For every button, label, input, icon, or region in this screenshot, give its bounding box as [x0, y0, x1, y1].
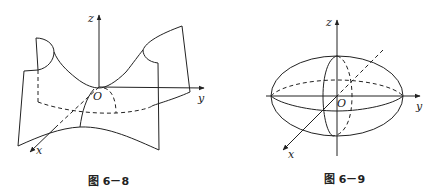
figure-caption-6-9: 图 6－9 [324, 170, 365, 186]
saddle-surface-figure [18, 15, 204, 152]
x-axis [283, 96, 337, 150]
saddle-front-parabola [80, 89, 94, 127]
saddle-left-lobe [36, 38, 54, 70]
y-axis [99, 87, 204, 88]
figure-caption-6-8: 图 6－8 [88, 172, 129, 188]
y-axis-label-fig-6-8: y [197, 92, 205, 105]
origin-label-fig-6-9: O [337, 97, 346, 110]
z-axis-label-fig-6-9: z [325, 16, 332, 29]
figures-canvas: z y x O z y x O [0, 0, 437, 196]
saddle-hidden-bottom [38, 102, 152, 113]
ellipsoid-figure [266, 20, 420, 156]
origin-label-fig-6-8: O [93, 90, 102, 103]
saddle-right-edge [143, 50, 159, 150]
y-axis-label-fig-6-9: y [415, 100, 423, 113]
saddle-right-lobe [143, 26, 190, 106]
saddle-left-edge [18, 70, 38, 146]
z-axis-label-fig-6-8: z [87, 12, 94, 25]
x-axis-hidden [337, 50, 383, 96]
x-axis-label-fig-6-9: x [288, 148, 295, 161]
saddle-hidden-parabola [104, 88, 116, 113]
x-axis-label-fig-6-8: x [36, 144, 43, 157]
